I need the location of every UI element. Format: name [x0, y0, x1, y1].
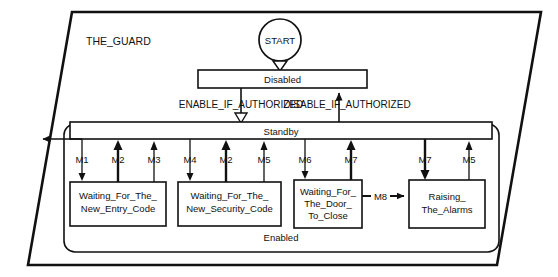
- state-raising-alarms-line1: Raising_: [429, 191, 467, 202]
- transition-m2b-label: M2: [219, 154, 232, 165]
- state-standby-label: Standby: [264, 126, 299, 137]
- transition-m7a-label: M7: [344, 154, 357, 165]
- state-disabled-label: Disabled: [264, 74, 301, 85]
- state-waiting-door-line1: Waiting_For_: [300, 186, 357, 197]
- transition-m1-label: M1: [75, 154, 88, 165]
- state-waiting-door-line3: To_Close: [308, 210, 348, 221]
- transition-disable-label: DISABLE_IF_AUTHORIZED: [283, 99, 410, 110]
- start-label: START: [265, 35, 295, 46]
- state-waiting-door-line2: The_Door_: [304, 198, 352, 209]
- state-waiting-security-line2: New_Security_Code: [186, 203, 273, 214]
- transition-m3-label: M3: [147, 154, 160, 165]
- state-waiting-security-line1: Waiting_For_The_: [191, 190, 270, 201]
- transition-m5b-label: M5: [462, 154, 475, 165]
- state-waiting-entry-line1: Waiting_For_The_: [79, 190, 158, 201]
- transition-m2a-label: M2: [111, 154, 124, 165]
- transition-m8-label: M8: [374, 191, 387, 202]
- transition-m4-label: M4: [183, 154, 196, 165]
- transition-m5a-label: M5: [257, 154, 270, 165]
- transition-m6-label: M6: [298, 154, 311, 165]
- page-title: THE_GUARD: [86, 35, 151, 47]
- state-waiting-entry-line2: New_Entry_Code: [81, 203, 155, 214]
- transition-m7b-label: M7: [418, 154, 431, 165]
- diagram-canvas: THE_GUARD START Disabled ENABLE_IF_AUTHO…: [0, 0, 558, 277]
- state-diagram: THE_GUARD START Disabled ENABLE_IF_AUTHO…: [0, 0, 558, 277]
- state-raising-alarms-line2: The_Alarms: [421, 204, 472, 215]
- region-enabled-label: Enabled: [264, 232, 299, 243]
